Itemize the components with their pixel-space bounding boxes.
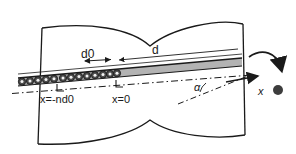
- diagram-figure: d0 d x=-nd0 x=0 x α: [0, 0, 296, 154]
- bead-highlight: [28, 79, 31, 82]
- label-d: d: [152, 44, 159, 56]
- tick-x-zero: [116, 80, 123, 87]
- bottom-wall: [38, 120, 245, 144]
- bead-highlight: [61, 76, 64, 79]
- bead-highlight: [101, 73, 104, 76]
- label-alpha-angle: α: [194, 82, 200, 93]
- bead-highlight: [36, 79, 39, 82]
- bead-highlight: [69, 76, 72, 79]
- label-x-zero: x=0: [112, 94, 130, 105]
- angle-arc: [200, 83, 206, 92]
- bead-highlight: [20, 80, 23, 83]
- label-x-minus-nd0: x=-nd0: [40, 94, 74, 105]
- dimension-d: [119, 49, 238, 60]
- label-d0: d0: [81, 48, 94, 60]
- diagram-canvas: [0, 0, 296, 154]
- top-wall: [42, 22, 243, 46]
- bead-highlight: [77, 75, 80, 78]
- label-x-axis: x: [258, 86, 264, 97]
- bead-highlight: [115, 72, 118, 75]
- bead-highlight: [44, 78, 47, 81]
- rotation-arrow: [249, 52, 281, 68]
- bead-highlight: [108, 72, 111, 75]
- bead-highlight: [93, 74, 96, 77]
- free-particle: [273, 85, 283, 95]
- vessel-outline: [38, 22, 245, 144]
- bead-highlight: [52, 77, 55, 80]
- bead-highlight: [85, 74, 88, 77]
- left-wall: [38, 28, 42, 144]
